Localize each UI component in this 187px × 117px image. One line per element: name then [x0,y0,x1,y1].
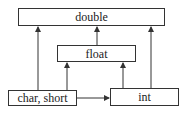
node-char-short: char, short [8,90,77,106]
node-int: int [110,88,179,106]
node-float-label: float [86,48,108,60]
node-float: float [57,45,136,62]
node-char-short-label: char, short [17,92,67,104]
node-int-label: int [138,91,151,103]
node-double-label: double [75,11,108,23]
node-double: double [18,8,165,26]
type-conversion-diagram: double float char, short int [0,0,187,117]
